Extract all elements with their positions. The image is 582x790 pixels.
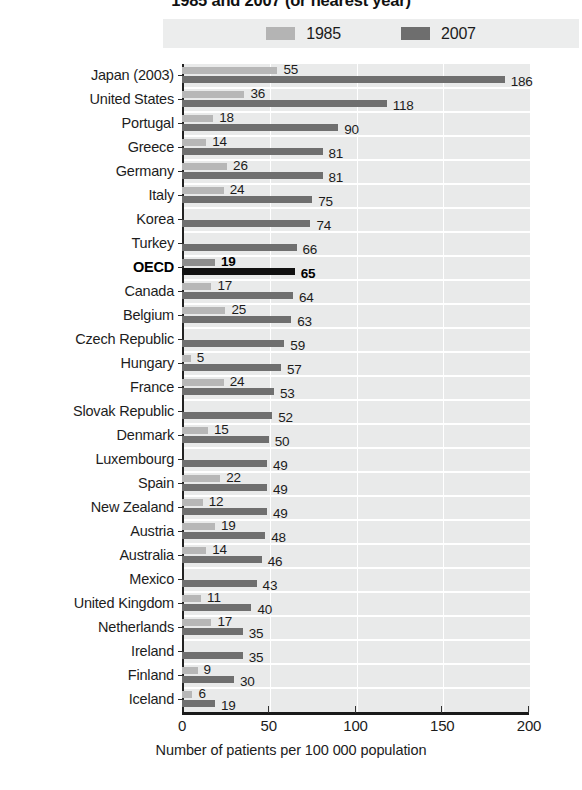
legend-label-1985: 1985 (306, 25, 341, 43)
bar-value-2007: 50 (275, 435, 290, 448)
bar-value-1985: 22 (226, 471, 241, 484)
bar-value-1985: 15 (214, 423, 229, 436)
bar-1985 (182, 259, 215, 266)
x-tick-label-200: 200 (499, 717, 559, 734)
bar-1985 (182, 691, 192, 698)
category-label-korea: Korea (0, 211, 174, 227)
bar-value-2007: 65 (301, 267, 316, 280)
bar-2007 (182, 700, 215, 707)
category-label-canada: Canada (0, 283, 174, 299)
bar-1985 (182, 595, 201, 602)
bar-1985 (182, 427, 208, 434)
legend-swatch-2007-icon (401, 27, 430, 40)
bar-value-2007: 186 (511, 75, 533, 88)
chart-row: Belgium2563 (0, 304, 582, 328)
bar-2007 (182, 484, 267, 491)
bar-value-1985: 19 (221, 255, 236, 268)
bar-value-2007: 49 (273, 459, 288, 472)
bar-2007 (182, 580, 257, 587)
category-label-denmark: Denmark (0, 427, 174, 443)
chart-row: Australia1446 (0, 544, 582, 568)
chart-row: Denmark1550 (0, 424, 582, 448)
bar-1985 (182, 115, 213, 122)
chart-row: Ireland35 (0, 640, 582, 664)
bar-2007 (182, 148, 323, 155)
chart-row: Italy2475 (0, 184, 582, 208)
bar-value-2007: 75 (318, 195, 333, 208)
bar-value-2007: 81 (329, 171, 344, 184)
bar-value-1985: 5 (197, 351, 204, 364)
x-axis-title: Number of patients per 100 000 populatio… (0, 742, 582, 758)
bar-value-2007: 49 (273, 507, 288, 520)
bar-1985 (182, 547, 206, 554)
x-tick-label-0: 0 (152, 717, 212, 734)
category-label-slovak-republic: Slovak Republic (0, 403, 174, 419)
bar-1985 (182, 139, 206, 146)
x-axis-tick-200 (528, 706, 529, 713)
bar-2007 (182, 364, 281, 371)
category-label-new-zealand: New Zealand (0, 499, 174, 515)
bar-value-1985: 11 (207, 591, 221, 604)
chart-title: 1985 and 2007 (or nearest year) (0, 0, 582, 10)
bar-2007 (182, 604, 251, 611)
bar-value-2007: 90 (344, 123, 359, 136)
x-axis-tick-150 (441, 706, 442, 713)
category-label-germany: Germany (0, 163, 174, 179)
chart-row: France2453 (0, 376, 582, 400)
x-axis-tick-100 (355, 706, 356, 713)
chart-row: Canada1764 (0, 280, 582, 304)
chart-row: Iceland619 (0, 688, 582, 712)
category-label-japan-2003: Japan (2003) (0, 67, 174, 83)
legend-label-2007: 2007 (441, 25, 476, 43)
chart-row: Spain2249 (0, 472, 582, 496)
bar-2007 (182, 268, 295, 275)
chart-row: Turkey66 (0, 232, 582, 256)
bar-value-2007: 19 (221, 699, 236, 712)
chart-row: Netherlands1735 (0, 616, 582, 640)
bar-value-1985: 12 (209, 495, 224, 508)
chart-row: Finland930 (0, 664, 582, 688)
chart-row: Germany2681 (0, 160, 582, 184)
category-label-greece: Greece (0, 139, 174, 155)
bar-2007 (182, 532, 265, 539)
bar-value-2007: 35 (249, 627, 264, 640)
bar-value-2007: 43 (263, 579, 278, 592)
chart-row: Japan (2003)55186 (0, 64, 582, 88)
chart-row: Portugal1890 (0, 112, 582, 136)
bar-value-2007: 59 (290, 339, 305, 352)
bar-value-2007: 57 (287, 363, 302, 376)
chart-row: OECD1965 (0, 256, 582, 280)
bar-value-2007: 49 (273, 483, 288, 496)
bar-1985 (182, 187, 224, 194)
category-label-france: France (0, 379, 174, 395)
x-tick-label-150: 150 (412, 717, 472, 734)
bar-1985 (182, 307, 225, 314)
chart-row: United States36118 (0, 88, 582, 112)
bar-value-1985: 14 (212, 135, 227, 148)
bar-2007 (182, 412, 272, 419)
x-axis-tick-50 (268, 706, 269, 713)
bar-2007 (182, 676, 234, 683)
bar-value-2007: 52 (278, 411, 293, 424)
bar-value-2007: 30 (240, 675, 255, 688)
bar-2007 (182, 196, 312, 203)
legend-item-1985: 1985 (266, 25, 341, 43)
category-label-mexico: Mexico (0, 571, 174, 587)
category-label-ireland: Ireland (0, 643, 174, 659)
bar-value-2007: 35 (249, 651, 264, 664)
bar-1985 (182, 523, 215, 530)
bar-2007 (182, 244, 297, 251)
bar-value-2007: 81 (329, 147, 344, 160)
bar-1985 (182, 67, 277, 74)
bar-2007 (182, 508, 267, 515)
category-label-turkey: Turkey (0, 235, 174, 251)
bar-2007 (182, 172, 323, 179)
bar-value-1985: 55 (283, 63, 298, 76)
category-label-finland: Finland (0, 667, 174, 683)
bar-value-1985: 24 (230, 375, 245, 388)
chart-row: Mexico43 (0, 568, 582, 592)
bar-value-2007: 63 (297, 315, 312, 328)
bar-2007 (182, 292, 293, 299)
bar-value-2007: 40 (257, 603, 272, 616)
bar-1985 (182, 379, 224, 386)
